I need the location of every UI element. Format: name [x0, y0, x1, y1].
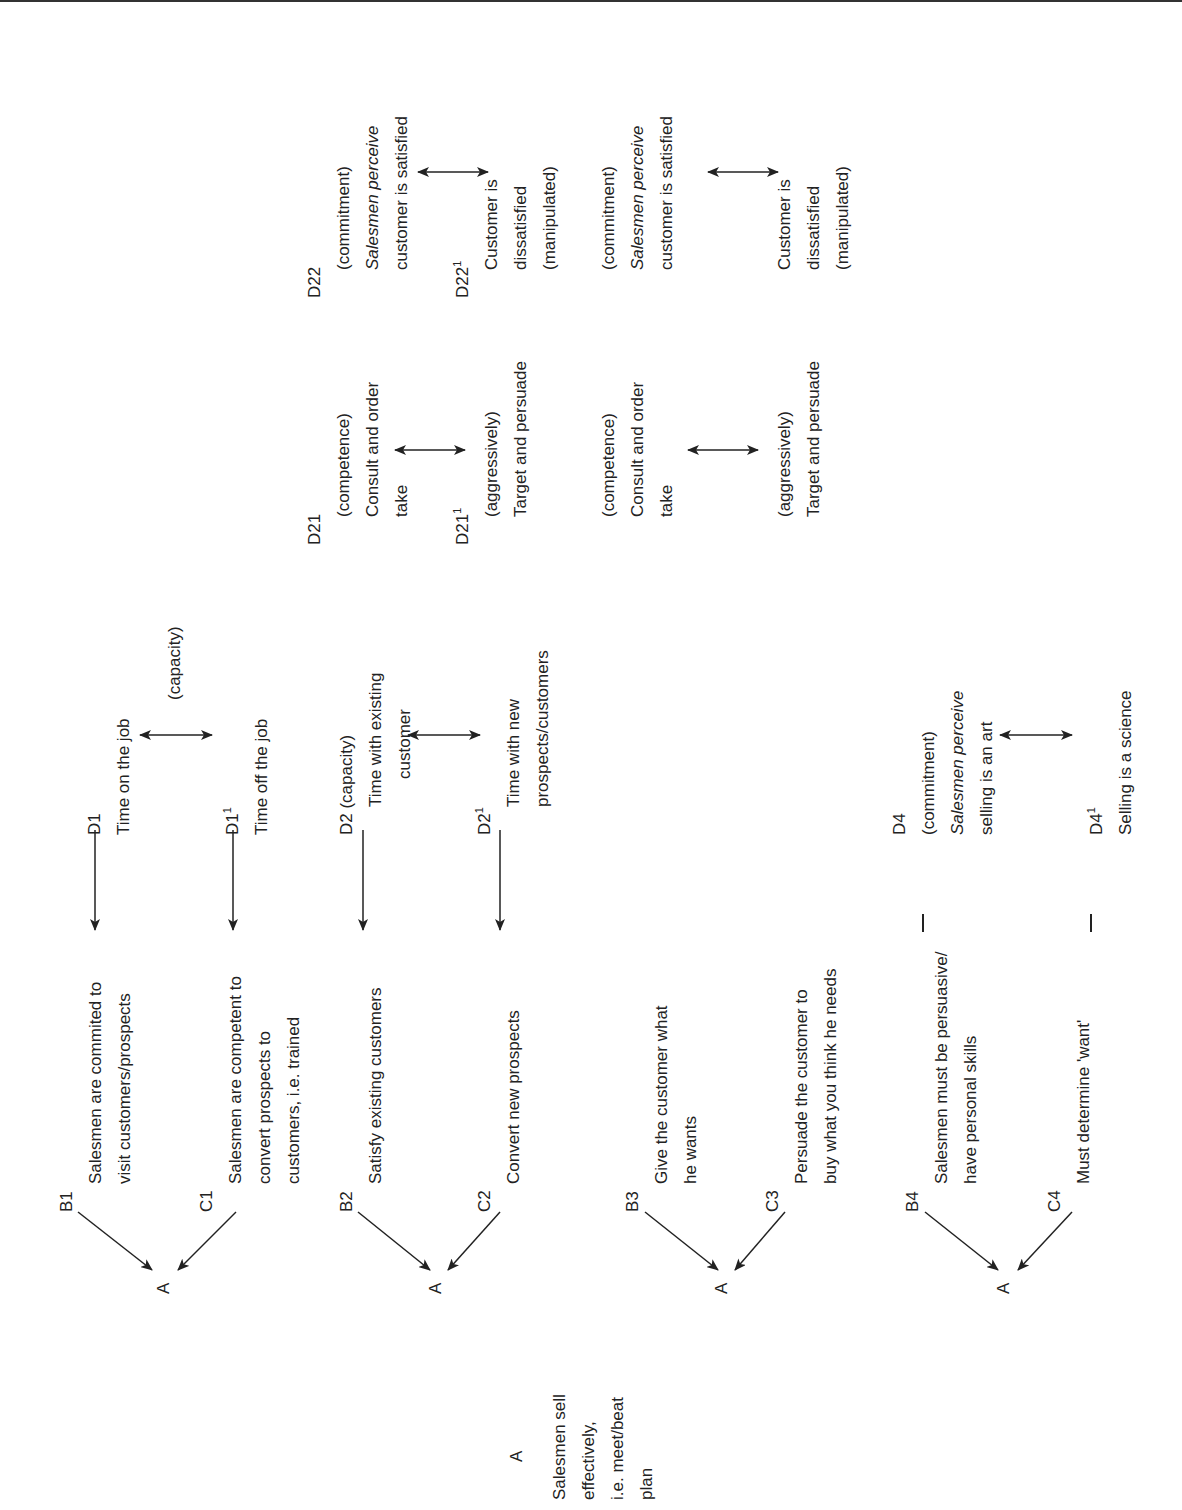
node-d21-2-line: Consult and order	[623, 382, 652, 545]
node-c1-label: C1	[192, 976, 221, 1212]
node-d21-label: D21	[300, 382, 329, 545]
arrow-b3-to-a	[645, 1212, 718, 1270]
node-b3: B3 Give the customer what he wants	[618, 1005, 705, 1212]
root-label: A	[502, 1394, 531, 1500]
node-c4-label: C4	[1040, 1020, 1069, 1212]
node-d4p-label: D41	[1082, 690, 1111, 835]
node-d1-label: D1	[80, 718, 109, 835]
node-d1p-label: D11	[218, 719, 247, 835]
node-d1p-line: Time off the job	[247, 719, 276, 835]
node-d21p: D211 (aggressively) Target and persuade	[448, 361, 535, 545]
arrow-c3-to-a	[735, 1212, 785, 1270]
dash-d4	[922, 914, 924, 932]
node-c4: C4 Must determine 'want'	[1040, 1020, 1098, 1212]
node-d22-2-line: (commitment)	[594, 116, 623, 298]
node-c1-line: Salesmen are competent to	[221, 976, 250, 1212]
node-d4p: D41 Selling is a science	[1082, 690, 1140, 835]
node-b3-line: Give the customer what	[647, 1005, 676, 1212]
node-b3-line: he wants	[676, 1005, 705, 1212]
a-node-4: A	[994, 1283, 1014, 1294]
node-d4p-line: Selling is a science	[1111, 690, 1140, 835]
node-d21-line: take	[387, 382, 416, 545]
node-d4-line: selling is an art	[972, 690, 1001, 835]
node-d2p: D21 Time with new prospects/customers	[470, 650, 557, 835]
node-d2-line: customer	[390, 673, 419, 835]
a-node-1: A	[154, 1283, 174, 1294]
node-d22: D22 (commitment) Salesmen perceive custo…	[300, 116, 416, 298]
node-d4-label: D4	[885, 690, 914, 835]
node-b1: B1 Salesmen are commited to visit custom…	[52, 982, 139, 1212]
arrow-b4-to-a	[925, 1212, 998, 1270]
node-d22-2-line: Salesmen perceive	[623, 116, 652, 298]
node-b4-line: Salesmen must be persuasive/	[927, 952, 956, 1212]
node-d22p-2-line: (manipulated)	[828, 166, 857, 298]
node-d4-line: Salesmen perceive	[943, 690, 972, 835]
node-d1: D1 Time on the job	[80, 718, 138, 835]
node-b3-label: B3	[618, 1005, 647, 1212]
node-b1-line: visit customers/prospects	[110, 982, 139, 1212]
node-d22p-line: (manipulated)	[535, 166, 564, 298]
node-d21-2-line: take	[652, 382, 681, 545]
node-d22-2-line: customer is satisfied	[652, 116, 681, 298]
node-b2-line: Satisfy existing customers	[361, 987, 390, 1212]
node-d2-label: D2 (capacity)	[332, 673, 361, 835]
arrow-c2-to-a	[448, 1212, 500, 1270]
node-d2p-line: Time with new	[499, 650, 528, 835]
node-c2: C2 Convert new prospects	[470, 1010, 528, 1212]
node-c1-line: convert prospects to	[250, 976, 279, 1212]
node-d1p: D11 Time off the job	[218, 719, 276, 835]
node-c4-line: Must determine 'want'	[1069, 1020, 1098, 1212]
node-c3-line: Persuade the customer to	[787, 969, 816, 1212]
node-d21p-line: (aggressively)	[477, 361, 506, 545]
arrow-c1-to-a	[178, 1212, 236, 1270]
node-c2-line: Convert new prospects	[499, 1010, 528, 1212]
node-d22p-line: Customer is	[477, 166, 506, 298]
node-d21p-2-line: (aggressively)	[770, 361, 799, 545]
a-node-2: A	[426, 1283, 446, 1294]
node-c3: C3 Persuade the customer to buy what you…	[758, 969, 845, 1212]
node-d22-line: customer is satisfied	[387, 116, 416, 298]
node-d22-line: Salesmen perceive	[358, 116, 387, 298]
node-d2-line: Time with existing	[361, 673, 390, 835]
root-line: plan	[632, 1394, 661, 1500]
a-node-3: A	[712, 1283, 732, 1294]
capacity-note: (capacity)	[160, 626, 189, 700]
node-d4: D4 (commitment) Salesmen perceive sellin…	[885, 690, 1001, 835]
node-d21-line: (competence)	[329, 382, 358, 545]
node-b2: B2 Satisfy existing customers	[332, 987, 390, 1212]
root-line: effectively,	[574, 1394, 603, 1500]
node-d1-line: Time on the job	[109, 718, 138, 835]
node-d22p-2-line: Customer is	[770, 166, 799, 298]
node-b2-label: B2	[332, 987, 361, 1212]
node-d22-label: D22	[300, 116, 329, 298]
node-b4-label: B4	[898, 952, 927, 1212]
root-line: Salesmen sell	[545, 1394, 574, 1500]
arrow-b2-to-a	[358, 1212, 430, 1270]
node-b4-line: have personal skills	[956, 952, 985, 1212]
node-d22-line: (commitment)	[329, 116, 358, 298]
node-d22p-line: dissatisfied	[506, 166, 535, 298]
node-c2-label: C2	[470, 1010, 499, 1212]
root-node: A Salesmen sell effectively, i.e. meet/b…	[502, 1394, 661, 1500]
node-d22p-label: D221	[448, 166, 477, 298]
node-d2p-line: prospects/customers	[528, 650, 557, 835]
node-c1-line: customers, i.e. trained	[279, 976, 308, 1212]
node-d2p-label: D21	[470, 650, 499, 835]
node-d21: D21 (competence) Consult and order take	[300, 382, 416, 545]
arrow-b1-to-a	[78, 1212, 152, 1270]
dash-d4p	[1090, 914, 1092, 932]
node-c3-label: C3	[758, 969, 787, 1212]
node-b1-label: B1	[52, 982, 81, 1212]
node-b4: B4 Salesmen must be persuasive/ have per…	[898, 952, 985, 1212]
node-d21-2: (competence) Consult and order take	[594, 382, 681, 545]
node-d22p: D221 Customer is dissatisfied (manipulat…	[448, 166, 564, 298]
node-d21p-label: D211	[448, 361, 477, 545]
root-line: i.e. meet/beat	[603, 1394, 632, 1500]
node-d22-2: (commitment) Salesmen perceive customer …	[594, 116, 681, 298]
node-d22p-2: Customer is dissatisfied (manipulated)	[770, 166, 857, 298]
node-c3-line: buy what you think he needs	[816, 969, 845, 1212]
diagram-stage: A Salesmen sell effectively, i.e. meet/b…	[0, 0, 1182, 1510]
node-c1: C1 Salesmen are competent to convert pro…	[192, 976, 308, 1212]
node-d21p-2-line: Target and persuade	[799, 361, 828, 545]
node-d4-line: (commitment)	[914, 690, 943, 835]
